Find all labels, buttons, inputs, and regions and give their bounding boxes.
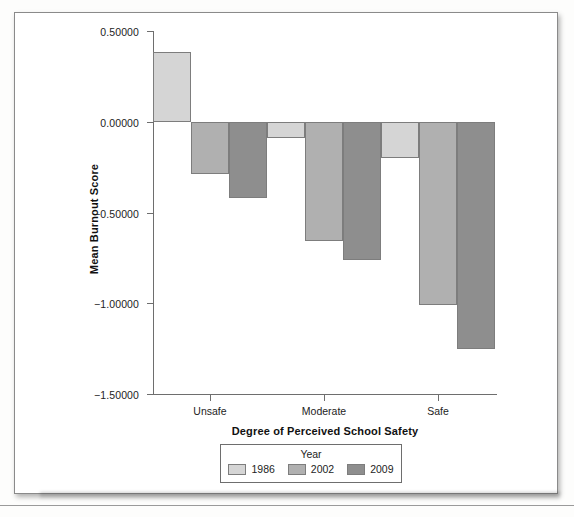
x-axis-tick bbox=[210, 394, 211, 401]
bar-safe-2009 bbox=[457, 122, 495, 349]
x-axis-tick-label: Safe bbox=[427, 405, 449, 417]
legend-label-2002: 2002 bbox=[311, 463, 334, 475]
y-axis-tick-label: 0.50000 bbox=[100, 26, 147, 38]
plot-wrapper: 0.500000.00000−0.50000−1.00000−1.50000 U… bbox=[15, 13, 557, 493]
page-scan-shadow bbox=[40, 492, 560, 500]
scanned-page: 0.500000.00000−0.50000−1.00000−1.50000 U… bbox=[0, 0, 574, 517]
bar-safe-1986 bbox=[381, 122, 419, 158]
y-axis-title: Mean Burnout Score bbox=[88, 119, 100, 319]
y-axis-tick-label: −1.50000 bbox=[94, 389, 147, 401]
bar-unsafe-1986 bbox=[153, 52, 191, 122]
x-axis-tick bbox=[438, 394, 439, 401]
bar-moderate-1986 bbox=[267, 122, 305, 138]
figure-frame: 0.500000.00000−0.50000−1.00000−1.50000 U… bbox=[14, 12, 558, 494]
y-axis-tick-label: 0.00000 bbox=[100, 117, 147, 129]
page-horizontal-rule bbox=[0, 505, 574, 506]
bar-moderate-2009 bbox=[343, 122, 381, 260]
y-axis-tick-label: −1.00000 bbox=[94, 298, 147, 310]
y-axis-tick-label: −0.50000 bbox=[94, 208, 147, 220]
legend-item-2009: 2009 bbox=[347, 463, 393, 475]
legend-swatch-2002 bbox=[288, 464, 306, 475]
bar-moderate-2002 bbox=[305, 122, 343, 241]
legend-item-2002: 2002 bbox=[288, 463, 334, 475]
legend-label-2009: 2009 bbox=[370, 463, 393, 475]
x-axis-tick-label: Unsafe bbox=[193, 405, 226, 417]
legend-title: Year bbox=[221, 448, 401, 460]
x-axis-line bbox=[153, 394, 497, 395]
legend-items: 198620022009 bbox=[221, 463, 401, 475]
x-axis-tick bbox=[324, 394, 325, 401]
legend-label-1986: 1986 bbox=[251, 463, 274, 475]
x-axis-tick-label: Moderate bbox=[302, 405, 346, 417]
legend: Year 198620022009 bbox=[220, 444, 402, 483]
plot-area bbox=[153, 31, 495, 394]
legend-swatch-2009 bbox=[347, 464, 365, 475]
bar-safe-2002 bbox=[419, 122, 457, 305]
x-axis-title: Degree of Perceived School Safety bbox=[153, 425, 497, 437]
bar-unsafe-2009 bbox=[229, 122, 267, 198]
y-axis-tick: −1.50000 bbox=[147, 394, 154, 395]
legend-swatch-1986 bbox=[228, 464, 246, 475]
legend-item-1986: 1986 bbox=[228, 463, 274, 475]
bar-unsafe-2002 bbox=[191, 122, 229, 175]
